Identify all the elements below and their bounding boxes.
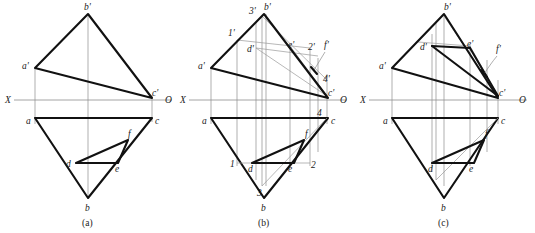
panel-b-label-4-prime: 4' — [323, 74, 331, 84]
panel-b-triangle-a-prime-b-prime-c-prime — [211, 14, 328, 98]
panel-b-label-b-prime: b' — [264, 2, 272, 12]
panel-b: X O a' b' c' 3' 1' d' — [179, 2, 347, 229]
panel-b-label-3: 3 — [256, 188, 262, 198]
panel-b-label-2: 2 — [311, 160, 316, 170]
panel-a-label-a-prime: a' — [22, 61, 30, 71]
panel-b-label-f-prime: f' — [324, 40, 330, 50]
panel-a-label-c: c — [155, 116, 160, 126]
panel-c-label-b-prime: b' — [444, 2, 452, 12]
panel-c-f-prime-leader — [481, 56, 497, 77]
panel-c-label-d: d — [428, 164, 433, 174]
panel-c-aux-lower — [436, 118, 498, 180]
panel-b-label-c-prime: c' — [328, 88, 335, 98]
panel-a-caption: (a) — [82, 218, 93, 229]
panel-b-label-e-prime: e' — [288, 40, 295, 50]
panel-c-label-a-prime: a' — [379, 61, 387, 71]
panel-c-label-f-prime: f' — [496, 44, 502, 54]
leader-curve-f-prime — [484, 56, 497, 74]
panel-b-label-b: b — [261, 203, 266, 213]
panel-c-projection-lines — [392, 16, 498, 186]
panel-a-x-label: X — [4, 95, 12, 105]
panel-b-label-a: a — [202, 116, 207, 126]
panel-b-label-1-prime: 1' — [228, 28, 236, 38]
panel-c: X O a' b' c' d' e' — [359, 2, 527, 229]
panel-a-label-b-prime: b' — [84, 2, 92, 12]
panel-a: X O a' b' c' a b c d e f (a) — [4, 2, 172, 229]
panel-c-label-b: b — [441, 203, 446, 213]
panel-a-label-c-prime: c' — [152, 88, 159, 98]
panel-b-caption: (b) — [258, 218, 269, 229]
panel-b-label-2-prime: 2' — [308, 42, 316, 52]
panel-a-def-triangle — [76, 140, 128, 163]
panel-a-label-e: e — [115, 164, 119, 174]
triangle-d-e-f — [76, 140, 128, 163]
leader-curve-f-prime — [314, 52, 325, 70]
panel-b-label-d: d — [248, 164, 253, 174]
panel-b-triangle-a-b-c — [211, 118, 328, 198]
panel-b-label-d-prime: d' — [247, 44, 255, 54]
panel-b-label-3-prime: 3' — [248, 6, 257, 16]
panel-a-label-b: b — [85, 203, 90, 213]
panel-c-caption: (c) — [438, 218, 449, 229]
panel-a-label-a: a — [26, 116, 31, 126]
panel-b-x-label: X — [179, 95, 187, 105]
panel-a-label-d: d — [66, 159, 71, 169]
panel-c-label-e-prime: e' — [467, 39, 474, 49]
panel-b-label-e: e — [288, 164, 292, 174]
panel-c-label-d-prime: d' — [420, 42, 428, 52]
panel-a-o-label: O — [165, 95, 172, 105]
figure-container: X O a' b' c' a b c d e f (a) — [0, 0, 535, 233]
triangle-a-prime-b-prime-c-prime — [35, 14, 152, 98]
panel-c-label-c: c — [501, 116, 506, 126]
tick-f-prime — [311, 67, 317, 74]
panel-a-lower-triangle — [35, 118, 152, 198]
panel-a-label-f: f — [128, 129, 132, 139]
panel-c-x-label: X — [359, 95, 367, 105]
panel-b-o-label: O — [340, 95, 347, 105]
panel-a-projection-lines — [35, 14, 152, 198]
panel-b-label-4: 4 — [317, 108, 322, 118]
panel-a-upper-triangle — [35, 14, 152, 98]
panel-c-label-c-prime: c' — [499, 88, 506, 98]
panel-b-label-c: c — [331, 116, 336, 126]
panel-c-label-e: e — [469, 164, 473, 174]
aux-3-4 — [262, 118, 327, 186]
figure-svg: X O a' b' c' a b c d e f (a) — [0, 0, 535, 233]
panel-c-o-label: O — [519, 95, 526, 105]
panel-c-label-a: a — [383, 116, 388, 126]
triangle-a-b-c — [35, 118, 152, 198]
panel-b-triangle-d-e-f — [252, 140, 304, 163]
panel-b-label-1: 1 — [230, 159, 235, 169]
panel-b-label-a-prime: a' — [198, 61, 206, 71]
